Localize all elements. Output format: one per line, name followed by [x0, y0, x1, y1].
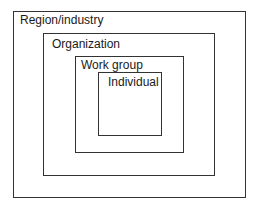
- individual-label: Individual: [108, 76, 159, 89]
- work-group-label: Work group: [81, 59, 143, 72]
- organization-label: Organization: [52, 38, 120, 51]
- region-label: Region/industry: [20, 14, 103, 27]
